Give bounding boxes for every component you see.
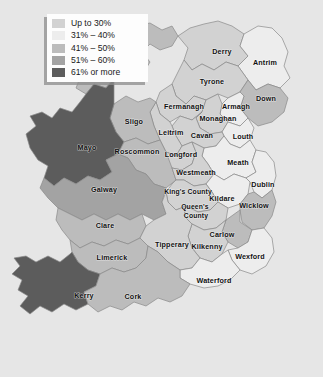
label-waterford: Waterford bbox=[196, 276, 231, 285]
label-tipperary: Tipperary bbox=[155, 240, 189, 249]
label-meath: Meath bbox=[227, 158, 249, 167]
map-legend: Up to 30% 31% – 40% 41% – 50% 51% – 60% … bbox=[47, 14, 148, 82]
legend-row-0[interactable]: Up to 30% bbox=[52, 18, 143, 29]
legend-label-4: 61% or more bbox=[71, 68, 120, 77]
label-mayo: Mayo bbox=[78, 143, 97, 152]
label-limerick: Limerick bbox=[97, 253, 128, 262]
label-galway: Galway bbox=[91, 185, 117, 194]
label-antrim: Antrim bbox=[253, 58, 277, 67]
label-tyrone: Tyrone bbox=[200, 77, 224, 86]
label-queens-county-line1: Queen's bbox=[181, 203, 209, 211]
label-kilkenny: Kilkenny bbox=[191, 242, 222, 251]
label-longford: Longford bbox=[165, 150, 198, 159]
label-westmeath: Westmeath bbox=[176, 168, 216, 177]
legend-label-1: 31% – 40% bbox=[71, 31, 115, 40]
label-kings-county-text: King's County bbox=[164, 188, 212, 196]
label-down: Down bbox=[256, 94, 276, 103]
legend-swatch-3 bbox=[52, 56, 65, 65]
label-kings-county: King's County bbox=[164, 188, 212, 196]
legend-swatch-1 bbox=[52, 31, 65, 40]
legend-label-3: 51% – 60% bbox=[71, 56, 115, 65]
label-louth: Louth bbox=[233, 132, 254, 141]
label-clare: Clare bbox=[96, 221, 115, 230]
label-kildare: Kildare bbox=[209, 194, 234, 203]
legend-row-3[interactable]: 51% – 60% bbox=[52, 55, 143, 66]
label-wexford: Wexford bbox=[235, 252, 265, 261]
label-queens-county-line2: County bbox=[184, 212, 208, 220]
label-leitrim: Leitrim bbox=[158, 128, 183, 137]
legend-label-2: 41% – 50% bbox=[71, 44, 115, 53]
legend-swatch-0 bbox=[52, 19, 65, 28]
label-kerry: Kerry bbox=[74, 291, 94, 300]
label-cork: Cork bbox=[125, 292, 142, 301]
label-cavan: Cavan bbox=[191, 131, 213, 140]
label-queens-county: Queen's County bbox=[181, 203, 211, 220]
label-derry: Derry bbox=[212, 47, 232, 56]
label-carlow: Carlow bbox=[210, 230, 235, 239]
label-wicklow: Wicklow bbox=[239, 201, 269, 210]
legend-swatch-4 bbox=[52, 68, 65, 77]
legend-swatch-2 bbox=[52, 44, 65, 53]
map-figure: Donegal Derry Antrim Tyrone Fermanagh Ar… bbox=[0, 0, 323, 377]
label-fermanagh: Fermanagh bbox=[164, 102, 204, 111]
label-monaghan: Monaghan bbox=[199, 114, 236, 123]
label-sligo: Sligo bbox=[125, 117, 144, 126]
legend-row-4[interactable]: 61% or more bbox=[52, 67, 143, 78]
label-armagh: Armagh bbox=[222, 102, 250, 111]
legend-label-0: Up to 30% bbox=[71, 19, 111, 28]
label-roscommon: Roscommon bbox=[115, 147, 160, 156]
legend-row-2[interactable]: 41% – 50% bbox=[52, 43, 143, 54]
legend-row-1[interactable]: 31% – 40% bbox=[52, 30, 143, 41]
label-dublin: Dublin bbox=[251, 180, 274, 189]
